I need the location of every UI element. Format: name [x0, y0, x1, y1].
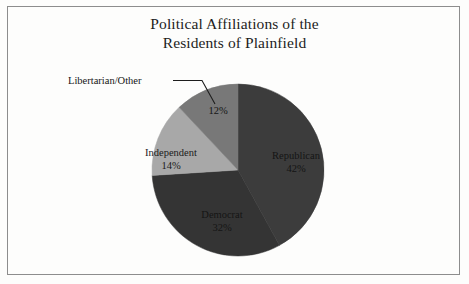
- slice-label-libertarian-other-name: Libertarian/Other: [68, 74, 141, 87]
- pie-svg: [0, 0, 469, 284]
- pie-plot-area: Republican 42% Democrat 32% Independent …: [0, 0, 469, 284]
- pie-chart-figure: Political Affiliations of the Residents …: [0, 0, 469, 284]
